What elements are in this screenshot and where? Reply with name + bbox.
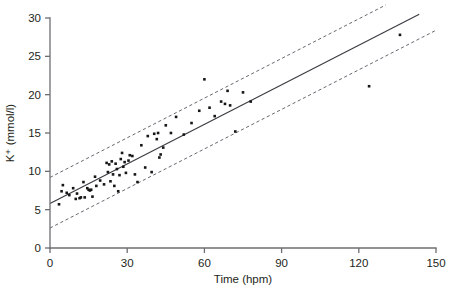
x-axis-title: Time (hpm) [214, 273, 273, 285]
data-point [76, 192, 79, 195]
data-point [74, 198, 77, 201]
y-tick-label: 10 [28, 165, 41, 177]
data-point [119, 158, 122, 161]
data-point [107, 171, 110, 174]
x-axis-tick-labels: 0306090120150 [47, 257, 446, 269]
data-point [146, 135, 149, 138]
regression-line [50, 14, 419, 203]
data-point [125, 172, 128, 175]
y-tick-label: 15 [28, 127, 41, 139]
data-point [121, 152, 124, 155]
data-point [80, 196, 83, 199]
data-point [157, 132, 160, 135]
data-point [208, 106, 211, 109]
data-point [162, 146, 165, 149]
data-point [127, 159, 130, 162]
y-axis-title: K⁺ (mmol/l) [4, 104, 16, 163]
data-point [170, 132, 173, 135]
data-point [136, 181, 139, 184]
data-point [224, 103, 227, 106]
data-point [62, 184, 65, 187]
plot-canvas: 051015202530 0306090120150 Time (hpm) K⁺… [0, 0, 476, 291]
data-point [72, 187, 75, 190]
data-point [155, 138, 158, 141]
data-point [117, 190, 120, 193]
data-point [114, 162, 117, 165]
data-point [203, 78, 206, 81]
lower-prediction-band [50, 30, 436, 228]
data-point [165, 124, 168, 127]
data-point [183, 133, 186, 136]
data-point-group [58, 34, 402, 206]
y-tick-label: 30 [28, 12, 41, 24]
data-point [90, 188, 93, 191]
data-point [112, 173, 115, 176]
data-point [95, 185, 98, 188]
data-point [220, 100, 223, 103]
data-point [399, 34, 402, 37]
data-point [94, 175, 97, 178]
x-tick-label: 30 [121, 257, 134, 269]
prediction-bands [50, 5, 436, 228]
x-tick-label: 120 [349, 257, 368, 269]
data-point [99, 179, 102, 182]
x-tick-label: 60 [198, 257, 211, 269]
axes [45, 18, 436, 253]
data-point [60, 190, 63, 193]
data-point [58, 203, 61, 206]
data-point [213, 115, 216, 118]
data-point [242, 91, 245, 94]
data-point [113, 185, 116, 188]
data-point [153, 132, 156, 135]
y-tick-label: 25 [28, 50, 41, 62]
upper-prediction-band [50, 5, 386, 178]
data-point [249, 100, 252, 103]
data-point [140, 144, 143, 147]
y-tick-label: 20 [28, 89, 41, 101]
data-point [103, 183, 106, 186]
data-point [122, 165, 125, 168]
data-point [158, 156, 161, 159]
y-axis-tick-labels: 051015202530 [28, 12, 41, 254]
data-point [198, 109, 201, 112]
data-point [110, 160, 113, 163]
data-point [128, 154, 131, 157]
data-point [229, 104, 232, 107]
x-tick-label: 90 [275, 257, 288, 269]
data-point [118, 174, 121, 177]
x-tick-label: 0 [47, 257, 53, 269]
x-tick-label: 150 [426, 257, 445, 269]
data-point [175, 116, 178, 119]
data-point [131, 155, 134, 158]
data-point [226, 90, 229, 93]
y-tick-label: 0 [35, 242, 41, 254]
data-point [83, 196, 86, 199]
data-point [368, 85, 371, 88]
y-axis-ticks [45, 18, 50, 248]
scatter-plot-figure: 051015202530 0306090120150 Time (hpm) K⁺… [0, 0, 476, 291]
data-point [65, 192, 68, 195]
data-point [159, 153, 162, 156]
data-point [150, 171, 153, 174]
data-point [91, 195, 94, 198]
data-point [190, 122, 193, 125]
data-point [116, 168, 119, 171]
data-point [109, 180, 112, 183]
data-point [105, 162, 108, 165]
data-point [144, 166, 147, 169]
x-axis-ticks [50, 248, 436, 253]
data-point [123, 161, 126, 164]
data-point [134, 173, 137, 176]
data-point [108, 163, 111, 166]
data-point [68, 194, 71, 197]
y-tick-label: 5 [35, 204, 41, 216]
data-point [82, 181, 85, 184]
data-point [234, 130, 237, 133]
